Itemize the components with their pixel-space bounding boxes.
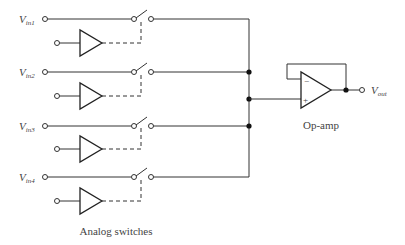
switch1-blade xyxy=(136,10,147,18)
switch4-blade xyxy=(136,168,147,176)
bus-node-2 xyxy=(246,69,251,74)
vout-terminal xyxy=(360,88,365,93)
switch3-blade xyxy=(136,117,147,125)
vout-label: Vout xyxy=(371,84,388,98)
ctrl4-dashed-link xyxy=(102,178,141,201)
buffer1-triangle-icon xyxy=(80,30,102,56)
vin4-terminal xyxy=(43,175,48,180)
opamp: − + Vout Op-amp xyxy=(287,64,388,131)
vin2-label: Vin2 xyxy=(19,66,35,80)
switch1-right-contact xyxy=(149,17,154,22)
channel-3: Vin3 xyxy=(19,117,249,162)
vin4-label: Vin4 xyxy=(19,171,35,185)
switch1-left-contact xyxy=(132,17,137,22)
vin1-terminal xyxy=(43,17,48,22)
switch3-left-contact xyxy=(132,124,137,129)
bus-node-3 xyxy=(246,123,251,128)
switch3-right-contact xyxy=(149,124,154,129)
opamp-caption: Op-amp xyxy=(303,119,340,131)
ctrl3-terminal xyxy=(55,147,60,152)
ctrl3-dashed-link xyxy=(102,127,141,149)
switch2-blade xyxy=(136,63,147,71)
output-node xyxy=(343,87,348,92)
switch4-right-contact xyxy=(149,175,154,180)
ctrl1-dashed-link xyxy=(102,20,141,43)
buffer4-triangle-icon xyxy=(80,188,102,214)
ctrl1-terminal xyxy=(55,41,60,46)
switch2-left-contact xyxy=(132,70,137,75)
vin3-terminal xyxy=(43,124,48,129)
analog-switches-caption: Analog switches xyxy=(79,225,152,237)
channel-1: Vin1 xyxy=(19,10,249,56)
channel-4: Vin4 xyxy=(19,168,249,214)
ctrl2-terminal xyxy=(55,94,60,99)
buffer3-triangle-icon xyxy=(80,136,102,162)
vin2-terminal xyxy=(43,70,48,75)
vin3-label: Vin3 xyxy=(19,120,35,134)
switch4-left-contact xyxy=(132,175,137,180)
switch2-right-contact xyxy=(149,70,154,75)
channel-2: Vin2 xyxy=(19,63,249,109)
vin1-label: Vin1 xyxy=(19,13,35,27)
analog-mux-schematic: Vin1 Vin2 Vin3 xyxy=(0,0,405,245)
opamp-minus-sign: − xyxy=(304,76,309,86)
ctrl2-dashed-link xyxy=(102,73,141,96)
opamp-plus-sign: + xyxy=(303,95,308,105)
ctrl4-terminal xyxy=(55,199,60,204)
buffer2-triangle-icon xyxy=(80,83,102,109)
